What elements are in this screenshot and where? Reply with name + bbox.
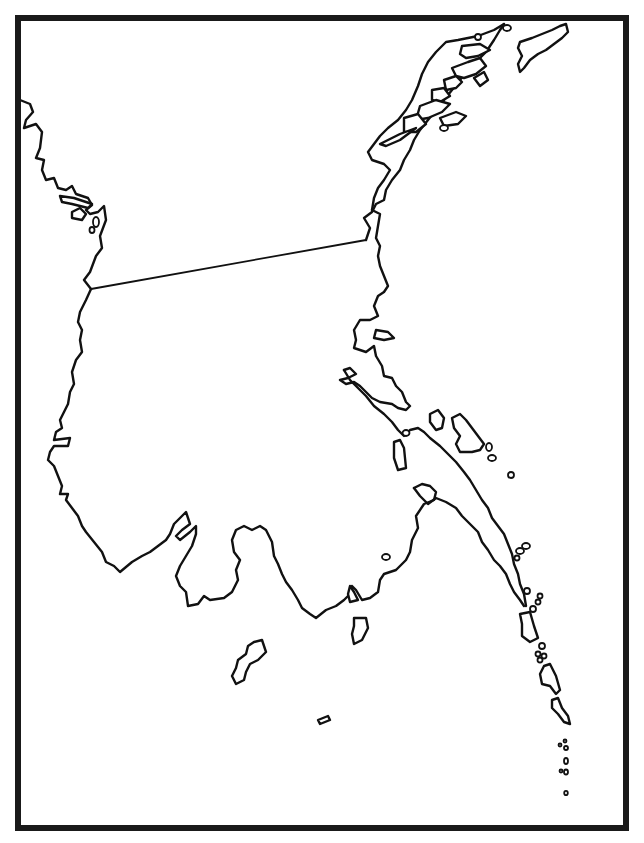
islet: [503, 25, 511, 31]
islet: [93, 217, 99, 227]
northwest-coast: [20, 100, 106, 289]
islet: [564, 791, 568, 795]
islet: [564, 758, 568, 764]
islet: [524, 588, 530, 594]
outline-map: [0, 0, 644, 843]
islet: [560, 770, 563, 773]
mid-east-islands: [430, 410, 514, 478]
northeast-coast-archipelago: [364, 24, 511, 240]
southern-islands: [232, 618, 368, 724]
islet: [440, 125, 448, 131]
map-canvas: [0, 0, 644, 843]
islet: [522, 543, 530, 549]
islet: [488, 455, 496, 461]
islet: [486, 443, 492, 451]
islet: [508, 472, 514, 478]
islet: [403, 430, 410, 436]
islet: [539, 643, 545, 649]
islet: [564, 770, 568, 775]
islet: [559, 744, 562, 747]
islet: [382, 554, 390, 560]
southeast-island-c: [552, 698, 570, 724]
islet: [475, 34, 481, 40]
southeast-island-b: [540, 664, 560, 694]
southeast-island-a: [520, 612, 538, 642]
land-boundary-line: [91, 240, 366, 289]
islet: [536, 652, 541, 657]
islet: [90, 227, 95, 233]
islet: [564, 746, 568, 750]
islet: [530, 606, 536, 612]
southeast-island-chain: [515, 543, 571, 795]
islet: [538, 594, 543, 599]
eastern-peninsula: [340, 210, 526, 606]
southern-islet-flat: [318, 716, 330, 724]
islet: [538, 658, 543, 663]
map-border-frame: [18, 18, 626, 828]
islet: [515, 556, 520, 561]
islet: [564, 740, 567, 743]
southern-island-small: [352, 618, 368, 644]
northeast-island: [518, 24, 568, 72]
islet: [536, 600, 541, 605]
southern-island-large: [232, 640, 266, 684]
